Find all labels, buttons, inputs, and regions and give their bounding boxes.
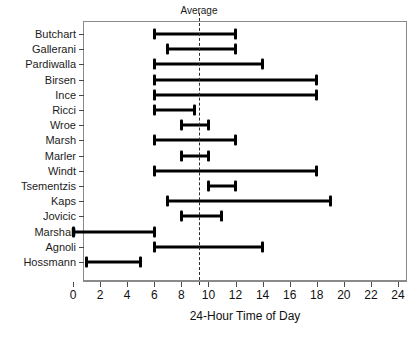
range-bar-wroe	[181, 124, 208, 127]
range-bar-hossmann	[87, 261, 141, 264]
range-cap-start	[166, 196, 169, 207]
category-tick	[79, 201, 84, 202]
category-tick	[79, 80, 84, 81]
x-tick	[100, 282, 101, 287]
x-tick	[344, 282, 345, 287]
range-bar-agnoli	[154, 245, 262, 248]
range-cap-start	[85, 257, 88, 268]
range-cap-start	[153, 74, 156, 85]
x-tick-label: 6	[151, 289, 158, 302]
range-cap-end	[220, 211, 223, 222]
x-tick	[236, 282, 237, 287]
range-bar-marsh	[154, 139, 235, 142]
range-bar-marler	[181, 154, 208, 157]
range-bar-windt	[154, 169, 317, 172]
range-cap-start	[153, 89, 156, 100]
category-label-marsh: Marsh	[45, 134, 76, 146]
range-bar-gallerani	[168, 48, 236, 51]
range-cap-start	[180, 211, 183, 222]
range-cap-start	[153, 105, 156, 116]
category-tick	[79, 95, 84, 96]
plot-frame	[83, 21, 407, 281]
range-cap-end	[193, 105, 196, 116]
x-tick	[208, 282, 209, 287]
category-tick	[79, 140, 84, 141]
range-cap-end	[153, 226, 156, 237]
x-tick	[73, 282, 74, 287]
range-cap-end	[315, 74, 318, 85]
category-label-birsen: Birsen	[45, 74, 76, 86]
range-cap-end	[234, 29, 237, 40]
category-tick	[79, 156, 84, 157]
range-bar-ricci	[154, 109, 195, 112]
x-tick	[263, 282, 264, 287]
x-tick-label: 2	[97, 289, 104, 302]
range-cap-start	[153, 165, 156, 176]
x-tick-label: 24	[391, 289, 404, 302]
x-tick-label: 20	[337, 289, 350, 302]
category-tick	[79, 49, 84, 50]
x-tick	[290, 282, 291, 287]
category-label-agnoli: Agnoli	[45, 241, 76, 253]
range-bar-butchart	[154, 33, 235, 36]
category-label-ricci: Ricci	[52, 104, 76, 116]
x-axis-line	[83, 281, 407, 282]
range-chart: Average ButchartGalleraniPardiwallaBirse…	[0, 0, 419, 342]
x-tick	[371, 282, 372, 287]
x-tick-label: 16	[283, 289, 296, 302]
range-cap-start	[153, 29, 156, 40]
range-bar-ince	[154, 93, 317, 96]
x-tick-label: 8	[178, 289, 185, 302]
category-label-ince: Ince	[55, 89, 76, 101]
range-cap-end	[234, 135, 237, 146]
category-tick	[79, 34, 84, 35]
range-bar-tsementzis	[208, 185, 235, 188]
category-tick	[79, 171, 84, 172]
range-cap-start	[153, 135, 156, 146]
range-cap-start	[166, 44, 169, 55]
range-cap-start	[180, 120, 183, 131]
category-label-kaps: Kaps	[51, 195, 76, 207]
range-cap-end	[234, 181, 237, 192]
category-label-marler: Marler	[45, 150, 76, 162]
category-tick	[79, 186, 84, 187]
category-label-tsementzis: Tsementzis	[21, 180, 76, 192]
range-cap-start	[153, 241, 156, 252]
range-cap-end	[315, 89, 318, 100]
x-tick-label: 18	[310, 289, 323, 302]
category-tick	[79, 262, 84, 263]
category-tick	[79, 216, 84, 217]
category-tick	[79, 110, 84, 111]
x-tick	[127, 282, 128, 287]
range-cap-end	[261, 59, 264, 70]
x-tick-label: 10	[202, 289, 215, 302]
x-tick-label: 12	[229, 289, 242, 302]
x-axis-title: 24-Hour Time of Day	[83, 309, 407, 323]
category-label-jovicic: Jovicic	[43, 210, 76, 222]
category-label-wroe: Wroe	[50, 119, 76, 131]
category-tick	[79, 247, 84, 248]
range-bar-marshall	[73, 230, 154, 233]
range-bar-kaps	[168, 200, 331, 203]
range-cap-end	[261, 241, 264, 252]
category-label-windt: Windt	[48, 165, 76, 177]
category-tick	[79, 64, 84, 65]
range-bar-pardiwalla	[154, 63, 262, 66]
range-cap-start	[180, 150, 183, 161]
range-bar-jovicic	[181, 215, 222, 218]
category-tick	[79, 125, 84, 126]
range-bar-birsen	[154, 78, 317, 81]
x-tick-label: 0	[70, 289, 77, 302]
x-tick-label: 22	[364, 289, 377, 302]
x-tick	[154, 282, 155, 287]
range-cap-start	[72, 226, 75, 237]
category-label-marshall: Marshall	[34, 226, 76, 238]
x-tick	[317, 282, 318, 287]
category-label-hossmann: Hossmann	[23, 256, 76, 268]
range-cap-end	[207, 120, 210, 131]
range-cap-start	[153, 59, 156, 70]
x-tick	[398, 282, 399, 287]
range-cap-end	[139, 257, 142, 268]
x-tick	[181, 282, 182, 287]
x-tick-label: 14	[256, 289, 269, 302]
